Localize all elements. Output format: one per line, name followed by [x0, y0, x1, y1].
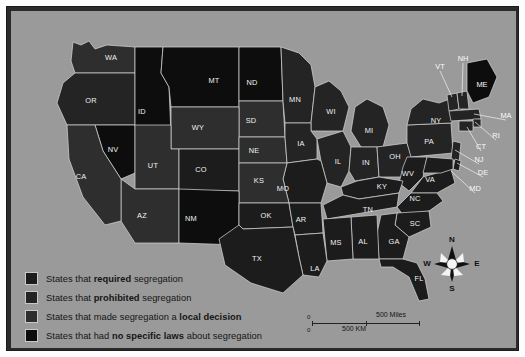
state-label-OK: OK [260, 211, 271, 220]
state-label-WA: WA [105, 53, 117, 62]
state-label-UT: UT [148, 161, 159, 170]
state-MO[interactable] [283, 159, 327, 203]
state-CT[interactable] [459, 121, 473, 131]
legend-item-no-specific-laws[interactable]: States that had no specific laws about s… [25, 326, 295, 345]
state-label-TX: TX [252, 254, 262, 263]
compass-rose: N S E W [421, 233, 483, 295]
state-label-OH: OH [389, 152, 401, 161]
state-label-IL: IL [335, 157, 342, 166]
state-label-AR: AR [296, 215, 307, 224]
state-label-CA: CA [76, 172, 87, 181]
state-label-NM: NM [185, 214, 197, 223]
legend-item-local-decision[interactable]: States that made segregation a local dec… [25, 307, 295, 326]
legend-label-local-decision: States that made segregation a local dec… [46, 312, 242, 322]
state-label-NY: NY [431, 116, 442, 125]
state-label-NE: NE [249, 146, 260, 155]
state-label-SD: SD [246, 116, 257, 125]
state-label-WV: WV [402, 169, 414, 178]
state-label-WI: WI [326, 107, 335, 116]
state-label-KY: KY [377, 182, 387, 191]
state-NE[interactable] [239, 137, 287, 163]
state-label-NC: NC [409, 194, 421, 203]
state-label-AL: AL [358, 237, 367, 246]
state-label-MI: MI [365, 126, 374, 135]
scale-km-max: 500 KM [342, 325, 366, 332]
legend-item-required[interactable]: States that required segregation [25, 269, 295, 288]
state-label-ND: ND [246, 78, 257, 87]
state-label-OR: OR [85, 96, 97, 105]
state-label-CO: CO [195, 165, 207, 174]
legend: States that required segregation States … [25, 269, 295, 345]
state-label-VT: VT [435, 62, 445, 71]
state-WY[interactable] [171, 107, 239, 149]
scale-bar: 0 500 Miles 0 500 KM [306, 310, 426, 337]
state-label-MA: MA [500, 111, 511, 120]
compass-star [434, 246, 470, 282]
legend-label-required: States that required segregation [46, 274, 183, 284]
legend-swatch-prohibited [25, 291, 38, 304]
state-label-ID: ID [138, 107, 146, 116]
scale-miles-max: 500 Miles [376, 311, 406, 318]
legend-label-prohibited: States that prohibited segregation [46, 293, 191, 303]
state-label-MT: MT [208, 76, 219, 85]
state-label-NV: NV [108, 145, 119, 154]
state-label-PA: PA [424, 137, 434, 146]
state-label-ME: ME [476, 80, 487, 89]
state-label-LA: LA [310, 264, 319, 273]
state-NH[interactable] [457, 91, 469, 109]
state-label-MN: MN [289, 95, 301, 104]
state-label-CT: CT [476, 142, 486, 151]
legend-item-prohibited[interactable]: States that prohibited segregation [25, 288, 295, 307]
map-figure: WAORIDMTNDMNWIMISDWYNVCAUTCONEIAILINOHPA… [0, 0, 525, 357]
state-MT[interactable] [161, 47, 239, 107]
state-label-NJ: NJ [474, 155, 483, 164]
state-label-MD: MD [469, 184, 481, 193]
state-label-IA: IA [297, 139, 304, 148]
state-label-RI: RI [492, 131, 499, 140]
state-label-VA: VA [425, 175, 435, 184]
state-label-MS: MS [330, 238, 342, 247]
map-canvas: WAORIDMTNDMNWIMISDWYNVCAUTCONEIAILINOHPA… [11, 11, 514, 346]
compass-rose-icon: N S E W [421, 233, 483, 295]
state-label-AZ: AZ [137, 211, 147, 220]
legend-label-no-specific-laws: States that had no specific laws about s… [46, 331, 262, 341]
compass-south: S [449, 284, 455, 293]
state-label-IN: IN [362, 158, 370, 167]
state-MD[interactable] [423, 157, 453, 173]
state-CO[interactable] [179, 149, 239, 191]
state-ND[interactable] [239, 47, 283, 101]
state-label-TN: TN [363, 205, 373, 214]
legend-swatch-local-decision [25, 310, 38, 323]
map-frame: WAORIDMTNDMNWIMISDWYNVCAUTCONEIAILINOHPA… [6, 6, 519, 351]
state-label-NH: NH [458, 54, 469, 63]
compass-north: N [449, 235, 455, 244]
scale-km-row: 0 500 KM [306, 324, 426, 337]
state-label-SC: SC [410, 219, 421, 228]
state-label-GA: GA [388, 237, 399, 246]
compass-west: W [423, 259, 431, 268]
state-label-KS: KS [254, 176, 264, 185]
legend-swatch-no-specific-laws [25, 329, 38, 342]
state-label-DE: DE [478, 168, 488, 177]
state-label-WY: WY [192, 123, 204, 132]
state-label-MO: MO [277, 184, 289, 193]
scale-miles-zero: 0 [307, 313, 310, 320]
legend-swatch-required [25, 272, 38, 285]
compass-east: E [474, 259, 480, 268]
scale-km-zero: 0 [307, 326, 310, 333]
